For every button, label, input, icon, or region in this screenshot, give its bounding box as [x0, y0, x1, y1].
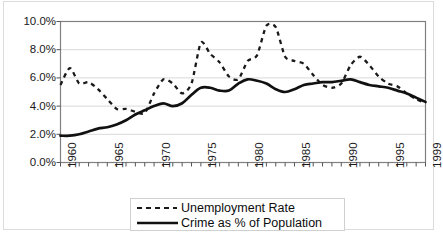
x-axis-label: 1990 [347, 142, 359, 168]
x-axis-label: 1995 [394, 142, 406, 168]
legend-label-crime-percent: Crime as % of Population [181, 216, 322, 230]
x-axis-label: 1985 [300, 142, 312, 168]
x-axis-label: 1999 [431, 142, 443, 168]
x-axis-label: 1965 [113, 142, 125, 168]
dashed-line-swatch-icon [135, 202, 179, 214]
solid-line-swatch-icon [135, 217, 179, 229]
x-axis-label: 1960 [66, 142, 78, 168]
x-axis-label: 1975 [206, 142, 218, 168]
legend-label-unemployment-rate: Unemployment Rate [181, 201, 295, 215]
legend-item-crime-percent: Crime as % of Population [131, 215, 322, 231]
x-axis-label: 1970 [160, 142, 172, 168]
legend-item-unemployment-rate: Unemployment Rate [131, 200, 295, 216]
x-axis-label: 1980 [253, 142, 265, 168]
chart-legend: Unemployment Rate Crime as % of Populati… [130, 198, 345, 231]
